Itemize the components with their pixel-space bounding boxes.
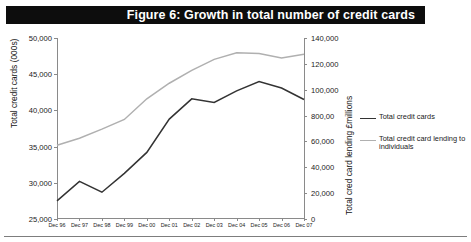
x-tick-label: Dec 05 xyxy=(251,222,268,228)
page-title: Figure 6: Growth in total number of cred… xyxy=(127,8,415,22)
left-tick-label: 50,000 xyxy=(29,34,52,43)
left-tick-label: 35,000 xyxy=(29,142,52,151)
right-tick-label: 100,000 xyxy=(311,85,338,94)
x-tick-label: Dec 96 xyxy=(48,222,65,228)
chart-lines xyxy=(57,38,305,219)
legend-item: Total credit card lending to individuals xyxy=(360,135,470,152)
left-tick-label: 45,000 xyxy=(29,70,52,79)
x-tick-label: Dec 06 xyxy=(273,222,290,228)
x-tick-label: Dec 99 xyxy=(116,222,133,228)
legend-item-label: Total credit cards xyxy=(379,113,470,122)
legend-swatch-icon xyxy=(360,118,376,119)
x-tick-label: Dec 04 xyxy=(228,222,245,228)
legend-item-label: Total credit card lending to individuals xyxy=(379,135,470,152)
x-tick-label: Dec 01 xyxy=(161,222,178,228)
legend-swatch-icon xyxy=(360,140,376,141)
x-tick-label: Dec 98 xyxy=(93,222,110,228)
right-tick-label: 120,000 xyxy=(311,59,338,68)
figure-container: Figure 6: Growth in total number of cred… xyxy=(0,0,471,242)
right-tick-label: 140,000 xyxy=(311,34,338,43)
left-tick-label: 30,000 xyxy=(29,178,52,187)
right-axis-title: Total cred card lending £millions xyxy=(344,96,354,215)
right-tick-label: 20,000 xyxy=(311,189,334,198)
figure-title-banner: Figure 6: Growth in total number of cred… xyxy=(6,6,425,24)
x-tick-label: Dec 97 xyxy=(71,222,88,228)
legend-item: Total credit cards xyxy=(360,113,470,122)
left-axis-title: Total credit cards (000s) xyxy=(9,39,19,128)
right-tick-label: 40,000 xyxy=(311,163,334,172)
chart-legend: Total credit cardsTotal credit card lend… xyxy=(360,113,470,165)
x-tick-label: Dec 03 xyxy=(206,222,223,228)
series-line-credit-cards xyxy=(57,81,304,200)
plot-area: 25,00030,00035,00040,00045,00050,000 020… xyxy=(57,38,305,219)
right-tick-label: 800,00 xyxy=(311,111,334,120)
left-tick-label: 40,000 xyxy=(29,106,52,115)
right-tick-label: 60,000 xyxy=(311,137,334,146)
series-line-lending xyxy=(57,53,304,145)
bottom-divider xyxy=(4,236,467,237)
x-tick-label: Dec 00 xyxy=(138,222,155,228)
x-tick-label: Dec 02 xyxy=(183,222,200,228)
x-tick-label: Dec 07 xyxy=(295,222,312,228)
